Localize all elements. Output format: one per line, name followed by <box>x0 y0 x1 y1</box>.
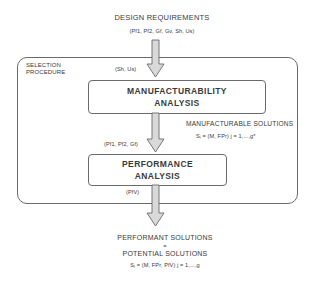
potential-solutions-formula: Sⱼ = (M, FPr, PfV) j = 1,...,g <box>90 262 240 268</box>
arrow-down-icon <box>147 40 165 78</box>
manufacturability-analysis-box: MANUFACTURABILITY ANALYSIS <box>88 80 266 114</box>
manufacturability-line2: ANALYSIS <box>127 97 227 109</box>
manufacturability-line1: MANUFACTURABILITY <box>127 85 227 97</box>
arrow-down-icon <box>147 113 165 153</box>
performance-analysis-box: PERFORMANCE ANALYSIS <box>88 154 227 186</box>
performance-line1: PERFORMANCE <box>122 158 193 170</box>
selection-label-line2: PROCEDURE <box>26 69 65 76</box>
design-requirements-title: DESIGN REQUIREMENTS <box>100 13 224 22</box>
performance-input-params: (Pf1, Pf2, Gf) <box>104 141 138 147</box>
potential-solutions-title: POTENTIAL SOLUTIONS <box>90 250 240 257</box>
equals-sign: = <box>90 243 240 249</box>
arrow-down-icon <box>147 185 165 227</box>
manufacturable-solutions-formula: Sⱼ = (M, FPr) j = 1,...,g* <box>196 133 256 139</box>
selection-procedure-label: SELECTION PROCEDURE <box>26 62 65 76</box>
design-requirements-params: (Pf1, Pf2, Gf, Gv, Sh, Us) <box>100 28 224 34</box>
performance-output-params: (PfV) <box>126 189 139 195</box>
performant-solutions-title: PERFORMANT SOLUTIONS <box>90 234 240 241</box>
selection-label-line1: SELECTION <box>26 62 65 69</box>
manufacturability-input-params: (Sh, Us) <box>115 66 136 72</box>
manufacturable-solutions-title: MANUFACTURABLE SOLUTIONS <box>186 120 293 127</box>
performance-line2: ANALYSIS <box>122 170 193 182</box>
